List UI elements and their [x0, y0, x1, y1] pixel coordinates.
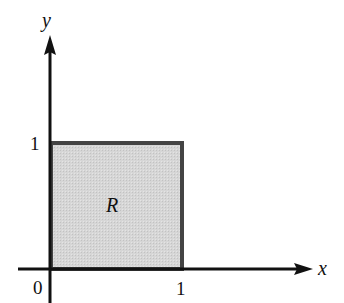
origin-label: 0 [33, 277, 43, 298]
region-label: R [105, 194, 118, 216]
y-axis-arrow-icon [44, 35, 56, 55]
x-tick-label: 1 [176, 278, 186, 299]
x-axis-label: x [317, 257, 327, 279]
coordinate-diagram: y x 1 0 1 R [0, 0, 344, 303]
y-tick-label: 1 [30, 133, 40, 154]
y-axis-label: y [40, 9, 51, 32]
